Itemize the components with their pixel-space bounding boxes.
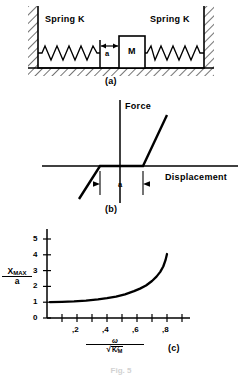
gap-arrow-left (101, 43, 106, 48)
right-spring (144, 46, 204, 60)
gap-label-a-b: a (118, 180, 122, 189)
gap-label-a: a (105, 49, 109, 58)
panel-b-caption: (b) (105, 204, 117, 214)
displacement-axis-label: Displacement (165, 172, 227, 182)
c-y-axis-label-denominator: a (2, 277, 32, 286)
panel-c-response-chart: 5 4 3 2 1 0 ,2 ,4 ,6 ,8 XMAX a ω √K⁄M (c… (0, 225, 242, 381)
panel-a-schematic: Spring K Spring K M a (a) (0, 0, 242, 95)
right-wall-hatching (204, 6, 214, 68)
panel-a-drawing (0, 0, 242, 95)
left-wall-hatching (28, 6, 38, 68)
c-x-tick-08: ,8 (162, 325, 169, 334)
panel-a-caption: (a) (105, 76, 117, 86)
left-spring (38, 46, 100, 60)
figure-bottom-note: Fig. 5 (0, 366, 242, 375)
c-x-tick-04: ,4 (102, 325, 109, 334)
spring-right-label: Spring K (150, 14, 190, 24)
c-y-axis-label-numerator: XMAX (2, 267, 32, 277)
c-y-tick-4: 4 (33, 250, 37, 259)
panel-b-force-displacement: Force Displacement a (b) (0, 95, 242, 225)
response-curve (50, 254, 167, 302)
panel-c-caption: (c) (168, 343, 180, 353)
floor-hatching (28, 68, 214, 76)
panel-b-drawing (0, 95, 242, 225)
gap-arrow-right-b (143, 181, 150, 187)
c-y-axis-label: XMAX a (2, 267, 32, 286)
mass-label: M (128, 46, 136, 56)
c-x-axis-label-radical: √K⁄M (86, 345, 144, 354)
c-y-tick-1: 1 (33, 297, 37, 306)
c-x-axis-label: ω √K⁄M (86, 337, 144, 354)
gap-arrow-left-b (93, 181, 100, 187)
c-y-tick-5: 5 (33, 234, 37, 243)
figure-root: Spring K Spring K M a (a) Force Displace… (0, 0, 242, 381)
gap-arrow-right (113, 43, 118, 48)
spring-left-label: Spring K (45, 14, 85, 24)
c-x-axis-label-omega: ω (86, 337, 144, 345)
c-x-tick-02: ,2 (72, 325, 79, 334)
deadband-curve (79, 115, 167, 199)
c-y-tick-2: 2 (33, 281, 37, 290)
c-y-tick-3: 3 (33, 266, 37, 275)
force-axis-label: Force (125, 101, 151, 111)
c-x-tick-06: ,6 (132, 325, 139, 334)
c-y-tick-0: 0 (33, 313, 37, 322)
